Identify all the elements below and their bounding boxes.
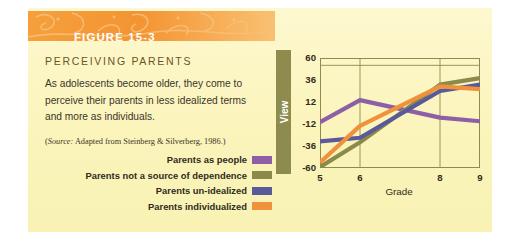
legend-color-swatch xyxy=(252,202,272,210)
figure-number-label: FIGURE 15-3 xyxy=(74,31,156,41)
y-axis-label: View xyxy=(278,101,289,124)
figure-body-text: As adolescents become older, they come t… xyxy=(45,76,257,126)
figure-source-note: (Source: Adapted from Steinberg & Silver… xyxy=(45,137,270,146)
legend-item-label: Parents as people xyxy=(167,154,247,165)
y-axis-label-bar: View xyxy=(276,50,291,174)
legend-item: Parents un-idealized xyxy=(20,183,272,199)
figure-container: FIGURE 15-3 PERCEIVING PARENTS As adoles… xyxy=(0,0,520,247)
series-line xyxy=(320,85,480,142)
legend-item: Parents individualized xyxy=(20,199,272,215)
legend-item-label: Parents individualized xyxy=(148,201,247,212)
legend-item-label: Parents not a source of dependence xyxy=(86,170,248,181)
plot-svg xyxy=(320,58,480,168)
legend-item: Parents not a source of dependence xyxy=(20,168,272,184)
legend-color-swatch xyxy=(252,156,272,164)
figure-headline: PERCEIVING PARENTS xyxy=(45,55,192,67)
x-axis-label: Grade xyxy=(364,186,434,197)
line-chart: View 603612-12-36-60 5689 Grade xyxy=(276,50,492,200)
legend-item-label: Parents un-idealized xyxy=(156,185,247,196)
y-axis-tick-label: -36 xyxy=(290,140,316,151)
source-citation: Adapted from Steinberg & Silverberg, 198… xyxy=(73,137,225,146)
plot-area xyxy=(320,58,480,168)
x-axis-tick-label: 5 xyxy=(310,172,330,183)
legend-color-swatch xyxy=(252,171,272,179)
y-axis-tick-label: -12 xyxy=(290,118,316,129)
figure-banner: FIGURE 15-3 xyxy=(28,11,275,41)
x-axis-tick-label: 8 xyxy=(430,172,450,183)
x-axis-tick-label: 6 xyxy=(350,172,370,183)
chart-legend: Parents as people Parents not a source o… xyxy=(20,152,272,214)
y-axis-tick-label: 36 xyxy=(290,74,316,85)
x-axis-tick-label: 9 xyxy=(470,172,490,183)
y-axis-tick-label: 60 xyxy=(290,52,316,63)
source-label: Source: xyxy=(48,137,74,146)
y-axis-tick-label: 12 xyxy=(290,96,316,107)
legend-color-swatch xyxy=(252,187,272,195)
legend-item: Parents as people xyxy=(20,152,272,168)
series-line xyxy=(320,78,480,167)
